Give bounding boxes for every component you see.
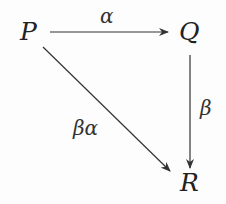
label-alpha: α xyxy=(100,6,114,26)
node-q: Q xyxy=(179,19,200,44)
label-beta-alpha: βα xyxy=(73,118,98,138)
arrow-p-to-r xyxy=(43,47,170,171)
node-p: P xyxy=(20,19,37,44)
label-beta: β xyxy=(200,98,212,118)
commutative-diagram: P Q R α β βα xyxy=(0,0,226,204)
node-r: R xyxy=(180,170,199,195)
